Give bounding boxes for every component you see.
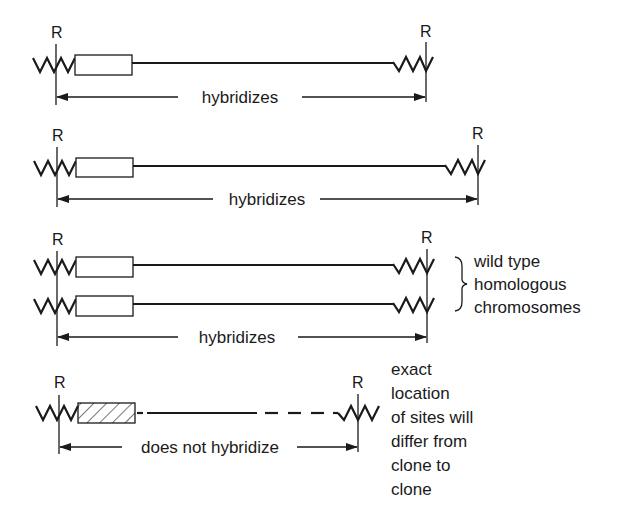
span-label: does not hybridize: [141, 438, 279, 457]
panel-3: R R wild type homologous chromosomes hyb…: [34, 229, 581, 347]
right-site-label: R: [352, 374, 364, 391]
right-flank-zigzag-icon: [393, 298, 434, 312]
hatched-insert-box: [78, 403, 135, 423]
side-label-line-1: wild type: [473, 252, 540, 271]
left-flank-zigzag-icon: [34, 260, 76, 274]
left-flank-zigzag-icon: [34, 161, 76, 175]
side-label-line-3: of sites will: [391, 408, 473, 427]
chromosome-1: [34, 257, 434, 277]
cloned-insert-box: [76, 257, 133, 277]
left-flank-zigzag-icon: [36, 406, 78, 420]
side-label-line-6: clone: [391, 480, 432, 499]
left-site-label: R: [51, 24, 63, 41]
chromosome-2: [34, 296, 434, 316]
right-site-label: R: [421, 229, 433, 246]
right-site-label: R: [420, 23, 432, 40]
side-label-line-3: chromosomes: [474, 298, 581, 317]
left-flank-zigzag-icon: [34, 299, 76, 313]
left-site-label: R: [52, 231, 64, 248]
left-flank-zigzag-icon: [33, 58, 75, 72]
span-label: hybridizes: [202, 88, 279, 107]
panel-1: R R hybridizes: [33, 23, 433, 107]
cloned-insert-box: [75, 55, 132, 75]
span-label: hybridizes: [199, 328, 276, 347]
left-site-label: R: [54, 374, 66, 391]
span-label: hybridizes: [229, 190, 306, 209]
side-label-line-2: location: [391, 384, 450, 403]
panel-4: R R does not hybridize exact location of…: [36, 360, 473, 499]
right-flank-zigzag-icon: [393, 259, 434, 273]
cloned-insert-box: [76, 158, 133, 177]
hybridization-diagram: R R hybridizes R R hybridizes R: [0, 0, 622, 522]
right-site-label: R: [472, 125, 484, 142]
side-label-line-1: exact: [391, 360, 432, 379]
right-flank-zigzag-icon: [445, 160, 485, 174]
left-site-label: R: [52, 127, 64, 144]
side-label-line-5: clone to: [391, 456, 451, 475]
cloned-insert-box: [76, 296, 133, 316]
side-label-line-4: differ from: [391, 432, 467, 451]
brace-icon: [455, 257, 467, 311]
right-flank-zigzag-icon: [393, 57, 433, 71]
panel-2: R R hybridizes: [34, 125, 485, 209]
side-label-line-2: homologous: [474, 275, 567, 294]
